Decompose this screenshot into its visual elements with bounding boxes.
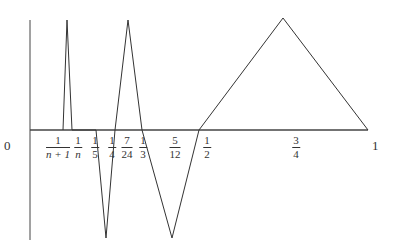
denominator: 4	[109, 148, 115, 160]
numerator: 1	[139, 135, 147, 147]
tick-label-7-over-24: 724	[122, 135, 133, 160]
tick-label-1-over-4: 14	[108, 135, 116, 160]
tick-label-1-over-2: 12	[203, 135, 211, 160]
tick-label-5-over-12: 512	[170, 135, 181, 160]
end-label: 1	[372, 139, 379, 152]
denominator: n	[75, 148, 81, 160]
denominator: 12	[170, 148, 181, 160]
numerator: 7	[123, 135, 131, 147]
numerator: 1	[91, 135, 99, 147]
numerator: 5	[171, 135, 179, 147]
denominator: n + 1	[46, 148, 70, 160]
denominator: 24	[122, 148, 133, 160]
tick-label-1-over-5: 15	[91, 135, 99, 160]
denominator: 5	[92, 148, 98, 160]
sawtooth-curve	[63, 18, 368, 238]
numerator: 1	[108, 135, 116, 147]
numerator: 3	[292, 135, 300, 147]
numerator: 1	[74, 135, 82, 147]
tick-label-3-over-4: 34	[292, 135, 300, 160]
tick-label-1-over-3: 13	[139, 135, 147, 160]
tick-label-1-over-n: 1n	[74, 135, 82, 160]
denominator: 3	[140, 148, 146, 160]
denominator: 4	[293, 148, 299, 160]
origin-label: 0	[4, 139, 11, 152]
denominator: 2	[204, 148, 210, 160]
function-graph	[0, 0, 400, 248]
tick-label-1-over-n-plus-1: 1n + 1	[46, 135, 70, 160]
numerator: 1	[54, 135, 62, 147]
numerator: 1	[203, 135, 211, 147]
